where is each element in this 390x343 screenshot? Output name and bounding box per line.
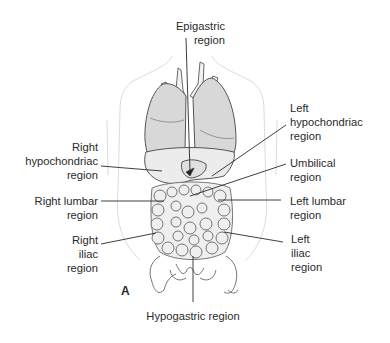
label-line: region (290, 208, 346, 222)
label-hypogastric-region: Hypogastric region (133, 309, 253, 323)
label-line: region (10, 261, 98, 275)
label-umbilical-region: Umbilical region (290, 156, 335, 184)
label-line: Hypogastric region (133, 309, 253, 323)
label-line: Umbilical (290, 156, 335, 170)
label-line: hypochondriac (290, 115, 363, 129)
label-line: iliac (10, 247, 98, 261)
label-right-hypochondriac-region: Right hypochondriac region (10, 140, 98, 182)
label-right-iliac-region: Right iliac region (10, 233, 98, 275)
pelvis (150, 256, 238, 293)
label-line: Right lumbar (10, 194, 98, 208)
label-right-lumbar-region: Right lumbar region (10, 194, 98, 222)
label-line: Right (10, 140, 98, 154)
label-line: hypochondriac (10, 154, 98, 168)
label-line: iliac (291, 246, 322, 260)
label-line: Right (10, 233, 98, 247)
label-left-lumbar-region: Left lumbar region (290, 194, 346, 222)
panel-letter: A (121, 284, 130, 298)
label-line: Epigastric (160, 19, 225, 33)
label-line: region (291, 260, 322, 274)
label-left-hypochondriac-region: Left hypochondriac region (290, 101, 363, 143)
left-iliac-leader (224, 232, 283, 242)
label-line: region (290, 170, 335, 184)
label-line: Left lumbar (290, 194, 346, 208)
label-line: Left (290, 101, 363, 115)
label-left-iliac-region: Left iliac region (291, 232, 322, 274)
label-epigastric-region: Epigastric region (160, 19, 225, 47)
right-iliac-leader (101, 233, 156, 244)
label-line: region (160, 33, 225, 47)
label-line: region (10, 168, 98, 182)
label-line: region (10, 208, 98, 222)
label-line: Left (291, 232, 322, 246)
label-line: region (290, 129, 363, 143)
intestines (151, 182, 233, 260)
